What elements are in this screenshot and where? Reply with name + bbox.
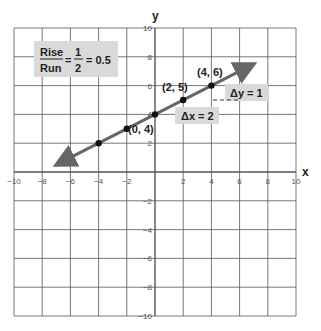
svg-text:6: 6 xyxy=(237,177,242,186)
svg-text:−2: −2 xyxy=(122,177,132,186)
data-point xyxy=(208,82,214,88)
svg-text:10: 10 xyxy=(143,24,152,33)
denominator: 2 xyxy=(75,62,81,74)
svg-text:10: 10 xyxy=(292,177,301,186)
numerator: 1 xyxy=(75,46,81,58)
point-label-0-4: (0, 4) xyxy=(128,123,154,135)
point-label-4-6: (4, 6) xyxy=(197,66,223,78)
data-point xyxy=(180,97,186,103)
svg-text:−4: −4 xyxy=(94,177,104,186)
svg-text:−10: −10 xyxy=(7,177,21,186)
svg-text:−8: −8 xyxy=(38,177,48,186)
svg-text:−2: −2 xyxy=(143,197,153,206)
data-point xyxy=(95,140,101,146)
svg-text:2: 2 xyxy=(148,139,153,148)
delta-x-box: Δx = 2 xyxy=(175,107,219,124)
svg-text:−10: −10 xyxy=(138,312,152,321)
rise-label: Rise xyxy=(40,46,63,58)
svg-text:−6: −6 xyxy=(66,177,76,186)
delta-y-box: Δy = 1 xyxy=(225,84,268,101)
svg-text:8: 8 xyxy=(266,177,271,186)
x-axis-label: x xyxy=(302,165,309,179)
slope-box: Rise Run = 1 2 = 0.5 xyxy=(34,41,118,77)
equals-sign: = xyxy=(65,54,71,66)
y-axis-label: y xyxy=(152,9,159,23)
svg-text:−6: −6 xyxy=(143,254,153,263)
svg-text:2: 2 xyxy=(181,177,186,186)
svg-text:8: 8 xyxy=(148,53,153,62)
run-label: Run xyxy=(40,62,62,74)
slope-result: = 0.5 xyxy=(86,54,111,66)
point-label-2-5: (2, 5) xyxy=(162,81,188,93)
svg-text:4: 4 xyxy=(209,177,214,186)
coordinate-plane: −10−8−6−4−2246810108642−2−4−6−8−10 y x R… xyxy=(0,0,321,331)
svg-text:6: 6 xyxy=(148,82,153,91)
svg-text:−8: −8 xyxy=(143,283,153,292)
delta-x-label: Δx = 2 xyxy=(181,110,214,122)
svg-text:−4: −4 xyxy=(143,226,153,235)
data-point xyxy=(152,111,158,117)
delta-y-label: Δy = 1 xyxy=(230,87,263,99)
